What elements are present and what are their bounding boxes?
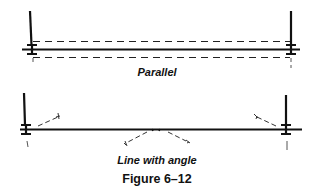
left-endpoint-marker [27, 45, 37, 62]
figure-caption: Figure 6–12 [0, 172, 314, 186]
angle-diagram [20, 93, 302, 150]
left-endpoint-marker-2 [21, 125, 31, 147]
left-wall-line [30, 11, 32, 45]
parallel-label: Parallel [0, 66, 314, 78]
left-wall-line-2 [24, 93, 25, 125]
right-endpoint-marker [286, 45, 296, 68]
angle-label: Line with angle [0, 154, 314, 166]
parallel-diagram [22, 11, 300, 68]
